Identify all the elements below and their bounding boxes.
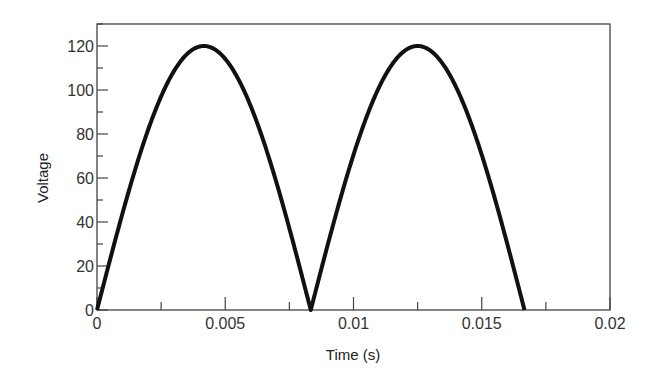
x-tick-label: 0.005 — [205, 315, 245, 332]
y-tick-label: 80 — [76, 126, 94, 143]
x-tick-label: 0.015 — [462, 315, 502, 332]
y-axis-tick-labels: 020406080100120 — [67, 38, 94, 319]
voltage-chart: 020406080100120 00.0050.010.0150.02 Time… — [0, 0, 647, 382]
x-axis-tick-labels: 00.0050.010.0150.02 — [93, 315, 626, 332]
x-tick-label: 0.01 — [338, 315, 369, 332]
x-axis-ticks — [97, 297, 610, 310]
x-tick-label: 0.02 — [594, 315, 625, 332]
voltage-curve — [97, 46, 525, 310]
y-tick-label: 40 — [76, 214, 94, 231]
y-tick-label: 100 — [67, 82, 94, 99]
y-tick-label: 60 — [76, 170, 94, 187]
plot-frame — [97, 24, 610, 310]
y-axis-label: Voltage — [34, 153, 51, 203]
x-axis-label: Time (s) — [326, 346, 380, 363]
y-tick-label: 120 — [67, 38, 94, 55]
x-tick-label: 0 — [93, 315, 102, 332]
y-tick-label: 20 — [76, 258, 94, 275]
